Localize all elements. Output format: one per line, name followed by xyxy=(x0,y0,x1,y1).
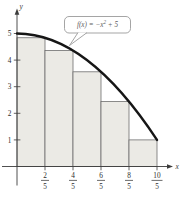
x-tick-numerator: 8 xyxy=(127,171,131,180)
y-axis-label: y xyxy=(19,2,24,11)
function-callout: f(x) = −x2 + 5 xyxy=(65,17,131,46)
x-tick-numerator: 10 xyxy=(153,171,161,180)
x-ticks: 25456585105 xyxy=(41,167,163,192)
riemann-rectangle xyxy=(101,102,129,167)
x-tick-numerator: 6 xyxy=(99,171,103,180)
x-axis-arrow-icon xyxy=(167,164,173,169)
y-tick-label: 4 xyxy=(8,56,12,65)
riemann-rectangles xyxy=(17,38,157,167)
riemann-sum-figure: 12345 25456585105 x y f(x) = −x2 + 5 xyxy=(0,0,181,197)
riemann-rectangle xyxy=(73,72,101,167)
x-tick-denominator: 5 xyxy=(71,182,75,191)
callout-pointer xyxy=(70,33,88,46)
x-tick-denominator: 5 xyxy=(155,182,159,191)
x-tick-denominator: 5 xyxy=(127,182,131,191)
riemann-rectangle xyxy=(129,140,157,167)
y-tick-label: 5 xyxy=(8,29,12,38)
x-axis-label: x xyxy=(175,162,180,171)
function-label: f(x) = −x2 + 5 xyxy=(77,19,118,29)
y-tick-label: 2 xyxy=(8,109,12,118)
riemann-rectangle xyxy=(17,38,45,167)
riemann-rectangle xyxy=(45,51,73,167)
x-tick-numerator: 4 xyxy=(71,171,75,180)
y-tick-label: 3 xyxy=(8,82,12,91)
x-tick-denominator: 5 xyxy=(43,182,47,191)
y-tick-label: 1 xyxy=(8,136,12,145)
x-tick-denominator: 5 xyxy=(99,182,103,191)
x-tick-numerator: 2 xyxy=(43,171,47,180)
